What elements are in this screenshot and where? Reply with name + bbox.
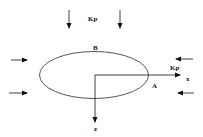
z-axis-label: z — [94, 125, 97, 133]
kp-top-label: Kp — [88, 15, 97, 23]
x-axis-label: x — [186, 75, 190, 83]
point-a-label: A — [152, 82, 157, 90]
kp-right-label: Kp — [170, 64, 179, 72]
point-b-label: B — [93, 44, 98, 52]
ellipse-stress-diagram: Kp Kp B A x z — [0, 0, 203, 137]
